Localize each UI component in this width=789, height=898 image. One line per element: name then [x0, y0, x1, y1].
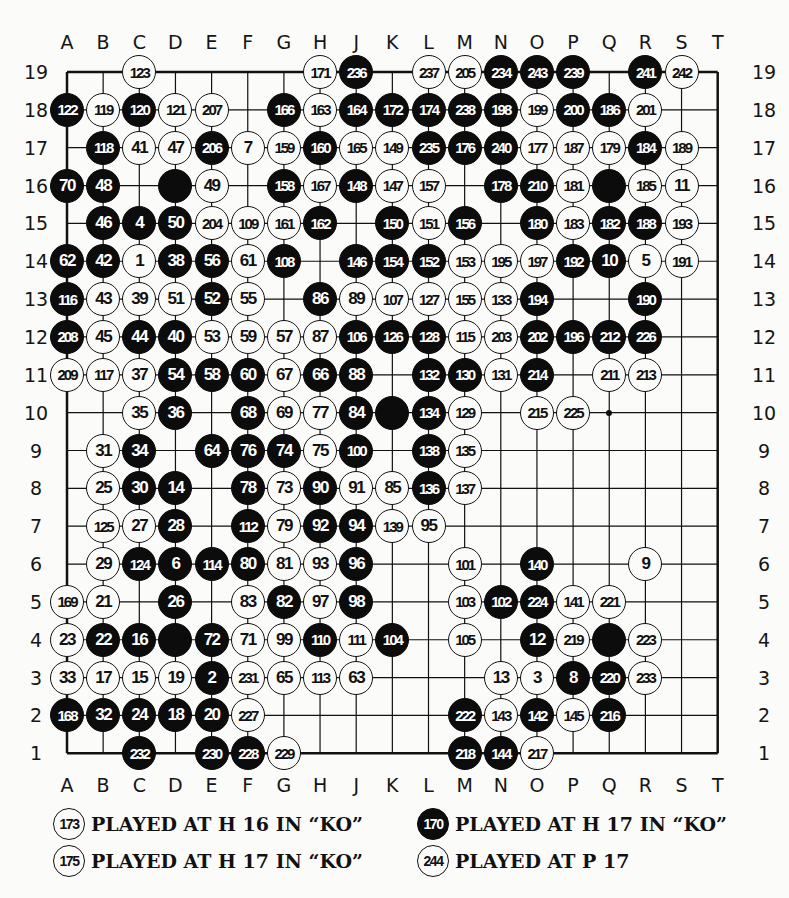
row-label: 12: [24, 327, 48, 346]
black-stone: 180: [520, 206, 554, 240]
white-stone: 99: [267, 623, 301, 657]
black-stone: 104: [375, 623, 409, 657]
white-stone: 27: [122, 509, 156, 543]
black-stone: 194: [520, 282, 554, 316]
black-stone: 6: [158, 547, 192, 581]
black-stone: 28: [158, 509, 192, 543]
row-label: 11: [24, 365, 48, 384]
white-stone: 177: [520, 131, 554, 165]
black-stone: 126: [375, 320, 409, 354]
black-stone: 232: [122, 736, 156, 770]
white-stone: 215: [520, 396, 554, 430]
black-stone: 116: [50, 282, 84, 316]
black-stone: 84: [339, 396, 373, 430]
column-label: F: [242, 33, 253, 52]
black-stone: 202: [520, 320, 554, 354]
row-label: 12: [752, 327, 776, 346]
black-stone: 52: [195, 282, 229, 316]
white-stone: 151: [412, 206, 446, 240]
row-label: 16: [24, 176, 48, 195]
black-stone: [592, 623, 626, 657]
black-stone: 218: [448, 736, 482, 770]
white-stone: 53: [195, 320, 229, 354]
white-stone: 89: [339, 282, 373, 316]
white-stone: 79: [267, 509, 301, 543]
legend-text: PLAYED AT P 17: [455, 850, 629, 872]
column-label: J: [353, 33, 359, 52]
black-stone: 38: [158, 244, 192, 278]
white-stone: 189: [665, 131, 699, 165]
column-label: Q: [602, 33, 617, 52]
white-stone: 23: [50, 623, 84, 657]
white-stone: 221: [592, 585, 626, 619]
row-label: 9: [758, 441, 770, 460]
row-label: 14: [752, 252, 776, 271]
black-stone: 22: [86, 623, 120, 657]
white-stone: 131: [484, 358, 518, 392]
row-label: 3: [758, 668, 770, 687]
white-stone: 169: [50, 585, 84, 619]
white-stone: 55: [231, 282, 265, 316]
column-label: T: [712, 33, 724, 52]
white-stone: 163: [303, 93, 337, 127]
white-stone: 29: [86, 547, 120, 581]
white-stone: 137: [448, 471, 482, 505]
black-stone: 210: [520, 169, 554, 203]
white-stone: 125: [86, 509, 120, 543]
black-stone: 86: [303, 282, 337, 316]
row-label: 19: [752, 63, 776, 82]
row-label: 2: [758, 706, 770, 725]
black-stone: 176: [448, 131, 482, 165]
white-stone: 43: [86, 282, 120, 316]
row-label: 18: [752, 100, 776, 119]
column-label: C: [133, 33, 146, 52]
black-stone: 174: [412, 93, 446, 127]
column-label: Q: [602, 776, 617, 795]
white-stone: 75: [303, 434, 337, 468]
black-stone: [158, 169, 192, 203]
black-stone: 230: [195, 736, 229, 770]
white-stone: 83: [231, 585, 265, 619]
black-stone: 80: [231, 547, 265, 581]
black-stone: 112: [231, 509, 265, 543]
white-stone: 51: [158, 282, 192, 316]
black-stone: 70: [50, 169, 84, 203]
row-label: 9: [30, 441, 42, 460]
column-label: B: [97, 776, 110, 795]
white-stone: 187: [556, 131, 590, 165]
black-stone: 10: [592, 244, 626, 278]
black-stone: 184: [628, 131, 662, 165]
legend-item-2: 175 PLAYED AT H 17 IN “KO”: [53, 845, 363, 877]
legend-text: PLAYED AT H 17 IN “KO”: [455, 813, 727, 835]
white-stone: 181: [556, 169, 590, 203]
white-stone: 9: [628, 547, 662, 581]
white-stone: 229: [267, 736, 301, 770]
white-stone: 11: [665, 169, 699, 203]
row-label: 15: [752, 214, 776, 233]
white-stone: 25: [86, 471, 120, 505]
black-stone: 154: [375, 244, 409, 278]
column-label: O: [529, 33, 544, 52]
column-label: J: [353, 776, 359, 795]
white-stone: 157: [412, 169, 446, 203]
black-stone: 240: [484, 131, 518, 165]
white-stone: 35: [122, 396, 156, 430]
black-stone: 46: [86, 206, 120, 240]
row-label: 8: [758, 479, 770, 498]
white-stone: 73: [267, 471, 301, 505]
black-stone: 216: [592, 698, 626, 732]
black-stone: 243: [520, 55, 554, 89]
black-stone: 78: [231, 471, 265, 505]
white-stone: 71: [231, 623, 265, 657]
column-label: K: [386, 776, 398, 795]
column-label: A: [61, 33, 74, 52]
white-stone: 171: [303, 55, 337, 89]
black-stone: 96: [339, 547, 373, 581]
column-label: H: [313, 33, 327, 52]
black-stone: 136: [412, 471, 446, 505]
row-label: 10: [24, 403, 48, 422]
row-label: 15: [24, 214, 48, 233]
black-stone: 54: [158, 358, 192, 392]
white-stone: 161: [267, 206, 301, 240]
black-stone: 2: [195, 661, 229, 695]
